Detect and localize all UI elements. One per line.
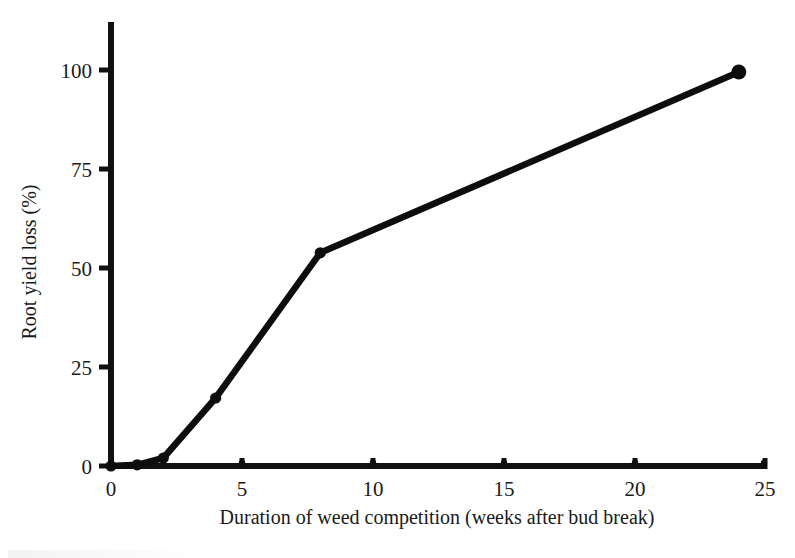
line-chart: 100 75 50 25 0 0 5 10 15 20 25: [0, 0, 795, 558]
y-tick-label-100: 100: [61, 59, 93, 83]
y-axis-tick-labels: 100 75 50 25 0: [61, 59, 93, 479]
x-tick-label-15: 15: [494, 477, 515, 501]
x-tick-label-0: 0: [106, 477, 117, 501]
data-point-2: [158, 452, 169, 463]
baseline-dot-20: [632, 460, 638, 466]
y-tick-label-25: 25: [71, 356, 92, 380]
x-axis-title: Duration of weed competition (weeks afte…: [220, 506, 655, 529]
x-axis-tick-labels: 0 5 10 15 20 25: [106, 477, 776, 501]
y-tick-label-75: 75: [71, 158, 92, 182]
scan-edge-artifact: [8, 550, 188, 558]
y-tick-label-50: 50: [71, 257, 92, 281]
data-point-24: [731, 65, 746, 80]
x-tick-label-5: 5: [237, 477, 248, 501]
y-tick-label-0: 0: [82, 455, 93, 479]
baseline-dot-10: [370, 460, 376, 466]
x-tick-label-25: 25: [755, 477, 776, 501]
x-tick-label-10: 10: [363, 477, 384, 501]
data-point-1: [132, 459, 143, 470]
baseline-dot-25: [761, 460, 767, 466]
axes: [108, 22, 766, 466]
data-point-8: [315, 247, 326, 258]
x-tick-label-20: 20: [625, 477, 646, 501]
series-line-root-yield-loss: [111, 72, 739, 466]
data-point-4: [210, 392, 221, 403]
y-axis-title: Root yield loss (%): [18, 185, 41, 340]
chart-figure: 100 75 50 25 0 0 5 10 15 20 25: [0, 0, 795, 558]
baseline-dot-15: [501, 460, 507, 466]
baseline-dot-5: [239, 460, 245, 466]
data-point-0: [105, 460, 116, 471]
